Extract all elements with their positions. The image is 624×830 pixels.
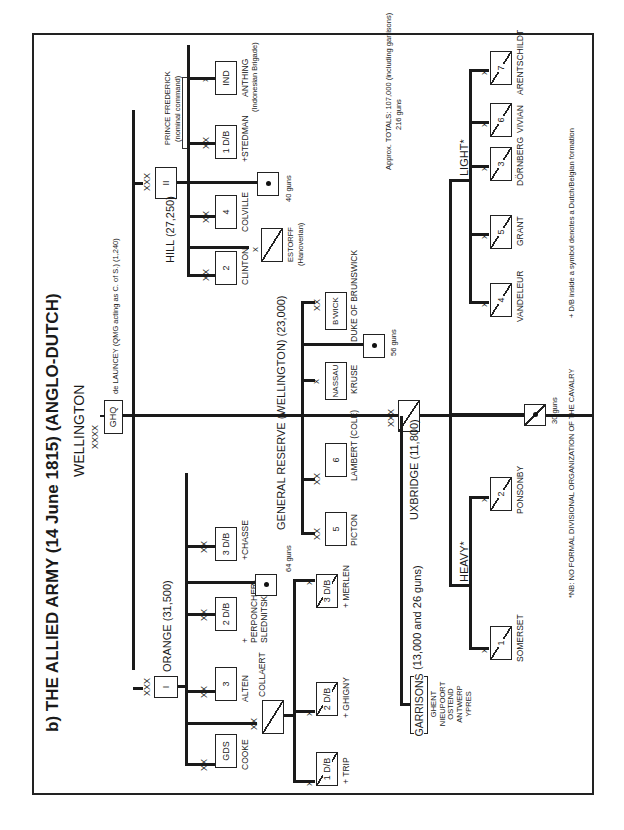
unit-box-5: 5	[325, 512, 347, 546]
merlen-echelon: X	[306, 580, 314, 585]
artillery-box-cavalry	[524, 404, 546, 426]
unit-box-2db: 2 D/B	[316, 682, 338, 716]
unit-symbol: 5	[497, 229, 506, 236]
ghigny-echelon: X	[306, 711, 314, 716]
town-ypres: YPRES	[465, 678, 474, 730]
unit-symbol: B'WICK	[332, 296, 340, 326]
commander-somerset: SOMERSET	[516, 614, 525, 662]
unit-symbol: 1	[497, 640, 506, 647]
kruse-echelon: X	[313, 379, 321, 384]
unit-symbol: 1 D/B	[222, 130, 231, 155]
estorff-note: (Hanoverian)	[297, 223, 305, 266]
name: CHASSE	[240, 520, 250, 555]
dornberg-echelon: X	[481, 166, 489, 171]
commander-arentschildt: ARENTSCHILDT	[516, 30, 525, 95]
name: STEDMAN	[240, 115, 250, 157]
orange-echelon: XXX	[143, 678, 152, 696]
ghq-connector	[100, 415, 105, 417]
stedman-echelon: XX	[202, 137, 211, 149]
main-trunk	[132, 110, 135, 670]
unit-box-3db-cav: 3 D/B	[316, 574, 338, 608]
unit-symbol: 3 D/B	[222, 532, 231, 557]
lambert-echelon: XX	[313, 473, 322, 485]
commander-cooke: COOKE	[241, 739, 250, 770]
commander-grant: GRANT	[516, 216, 525, 246]
unit-symbol: 2	[222, 265, 231, 272]
commander-trip: + TRIP	[342, 757, 351, 784]
commander-ponsonby: PONSONBY	[516, 466, 525, 514]
footnote-cavalry: *NB: NO FORMAL DIVISIONAL ORGANIZATION O…	[568, 368, 576, 598]
unit-symbol: 3	[497, 161, 506, 168]
commander-brunswick: DUKE OF BRUNSWICK	[350, 250, 359, 342]
commander-clinton: CLINTON	[241, 248, 250, 285]
trip-echelon: X	[306, 781, 314, 786]
commander-colville: COLVILLE	[241, 192, 250, 232]
clinton-echelon: XX	[202, 269, 211, 281]
cooke-echelon: XX	[200, 759, 209, 771]
unit-symbol: 5	[332, 526, 341, 533]
commander-vivian: VIVIAN	[516, 105, 525, 133]
garrison-stem	[400, 704, 410, 707]
anthing-echelon: X	[202, 77, 210, 82]
chasse-echelon: XX	[200, 541, 209, 553]
commander-lambert: LAMBERT (COLE)	[350, 410, 359, 481]
unit-symbol: 1 D/B	[323, 757, 332, 782]
reserve-label: GENERAL RESERVE (WELLINGTON) (23,000)	[276, 295, 287, 530]
unit-symbol: 2 D/B	[222, 602, 231, 627]
anthing-note: (Indonesian Brigade)	[251, 42, 259, 112]
brunswick-echelon: XX	[313, 299, 322, 311]
uxbridge-stem	[420, 415, 450, 418]
unit-symbol: IND	[222, 69, 231, 87]
garrison-towns: GHENT NIEUPOORT OSTEND ANTWERP YPRES	[430, 678, 473, 730]
unit-box-2db-inf: 2 D/B	[215, 597, 237, 631]
unit-box-bwick: B'WICK	[325, 292, 347, 330]
totals-line2: 216 guns	[395, 99, 403, 130]
prefix: +	[341, 713, 351, 718]
arentschildt-echelon: X	[481, 70, 489, 75]
estorff-echelon: X	[252, 247, 260, 252]
commander-vandeleur: VANDELEUR	[516, 271, 525, 322]
hill-corps-box: II	[155, 167, 177, 199]
unit-box-light-3: 3	[490, 147, 512, 181]
unit-box-3db-inf: 3 D/B	[215, 527, 237, 561]
commander-ghigny: + GHIGNY	[342, 677, 351, 718]
connector	[185, 582, 255, 585]
unit-box-1db-inf: 1 D/B	[215, 125, 237, 159]
unit-symbol: 4	[222, 209, 231, 216]
unit-symbol: 6	[332, 457, 341, 464]
reserve-stem	[290, 415, 302, 418]
name: TRIP	[341, 757, 351, 776]
commander-anthing: ANTHING	[241, 59, 250, 97]
commander-kruse: KRUSE	[350, 365, 359, 394]
somerset-echelon: X	[481, 648, 489, 653]
org-chart-canvas: b) THE ALLIED ARMY (14 June 1815) (ANGLO…	[0, 0, 624, 830]
artillery-icon	[266, 182, 271, 187]
connector	[187, 247, 249, 250]
unit-symbol: 2	[497, 491, 506, 498]
uxbridge-echelon: XXX	[387, 409, 396, 427]
orange-label: ORANGE (31,500)	[162, 580, 173, 672]
connector	[449, 180, 469, 183]
unit-symbol: GDS	[222, 740, 231, 762]
unit-box-estorff	[261, 228, 283, 262]
orange-stem	[178, 686, 185, 689]
collaert-echelon: XX	[250, 718, 259, 730]
commander-alten: ALTEN	[241, 675, 250, 702]
garrison-connector	[400, 416, 403, 706]
artillery-icon	[372, 344, 377, 349]
commander-estorff: ESTORFF	[287, 227, 295, 262]
uxbridge-bar	[449, 180, 452, 587]
unit-box-light-7: 7	[490, 51, 512, 85]
garrisons-label: GARRISONS	[414, 672, 425, 737]
prefix: +	[341, 779, 351, 784]
prefix: +	[240, 555, 250, 560]
vandeleur-echelon: X	[481, 302, 489, 307]
garrisons-strength: (13,000 and 26 guns)	[412, 565, 423, 670]
cavalry-guns: 30 guns	[551, 397, 559, 424]
unit-symbol: 4	[497, 297, 506, 304]
orange-corps-box: I	[154, 676, 178, 698]
alten-echelon: XX	[200, 686, 209, 698]
reserve-guns: 56 guns	[390, 329, 398, 356]
unit-symbol: NASSAU	[332, 364, 340, 399]
name: GHIGNY	[341, 677, 351, 711]
